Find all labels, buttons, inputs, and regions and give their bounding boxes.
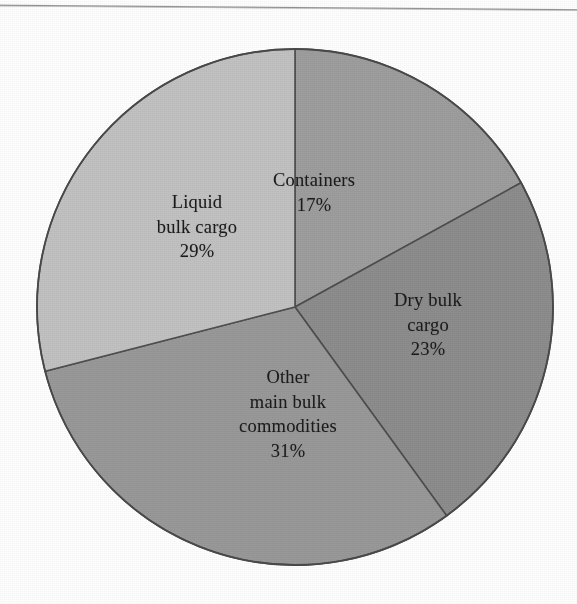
pie-label-liquid-line1: Liquid — [122, 190, 272, 215]
pie-label-liquid-percent: 29% — [122, 239, 272, 264]
pie-label-other-line1: Other — [208, 365, 368, 390]
pie-label-containers-line1: Containers — [244, 168, 384, 193]
pie-label-liquid-bulk-cargo: Liquid bulk cargo 29% — [122, 190, 272, 264]
pie-chart-figure: Containers 17% Dry bulk cargo 23% Other … — [0, 0, 577, 604]
pie-label-dry-bulk-cargo: Dry bulk cargo 23% — [358, 288, 498, 362]
pie-label-other-main-bulk-commodities: Other main bulk commodities 31% — [208, 365, 368, 463]
pie-label-other-line3: commodities — [208, 414, 368, 439]
pie-label-other-percent: 31% — [208, 439, 368, 464]
pie-label-dry-bulk-line2: cargo — [358, 313, 498, 338]
pie-chart-page: Containers 17% Dry bulk cargo 23% Other … — [0, 0, 577, 604]
pie-label-dry-bulk-percent: 23% — [358, 337, 498, 362]
pie-label-dry-bulk-line1: Dry bulk — [358, 288, 498, 313]
pie-label-liquid-line2: bulk cargo — [122, 215, 272, 240]
pie-label-other-line2: main bulk — [208, 390, 368, 415]
